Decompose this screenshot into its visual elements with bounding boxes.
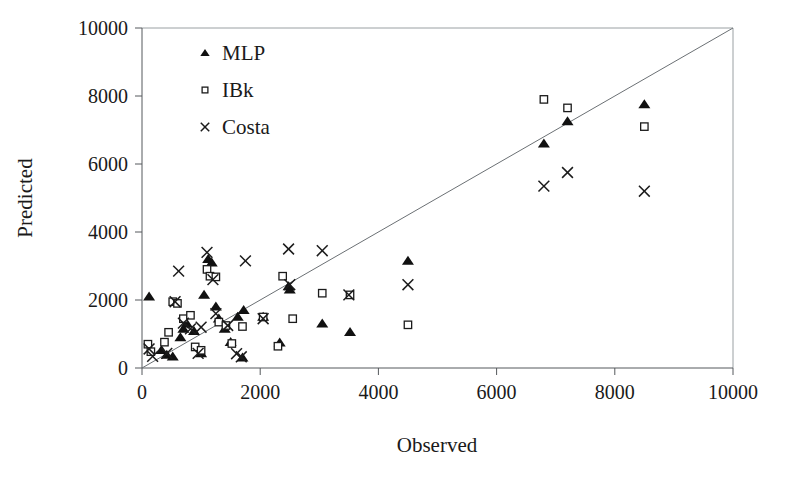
y-tick-label: 2000 <box>88 289 128 311</box>
y-tick-label: 8000 <box>88 85 128 107</box>
x-tick-label: 0 <box>137 381 147 403</box>
data-point-ibk <box>641 123 648 130</box>
x-tick-label: 2000 <box>240 381 280 403</box>
data-point-ibk <box>540 96 547 103</box>
legend-label-mlp: MLP <box>222 41 265 65</box>
x-tick-label: 4000 <box>358 381 398 403</box>
data-point-ibk <box>404 321 411 328</box>
data-point-ibk <box>165 329 172 336</box>
data-point-ibk <box>346 291 353 298</box>
data-point-ibk <box>289 315 296 322</box>
legend-label-ibk: IBk <box>222 78 254 102</box>
data-point-ibk <box>228 340 235 347</box>
data-point-ibk <box>319 290 326 297</box>
y-tick-label: 10000 <box>78 17 128 39</box>
data-point-ibk <box>279 273 286 280</box>
plot-canvas: 0200040006000800010000 02000400060008000… <box>0 0 799 485</box>
data-point-ibk-legend <box>202 87 208 93</box>
x-axis-title: Observed <box>397 433 478 457</box>
data-point-ibk <box>274 343 281 350</box>
x-tick-label: 6000 <box>477 381 517 403</box>
legend-label-costa: Costa <box>222 115 271 139</box>
data-point-ibk <box>161 338 168 345</box>
data-point-ibk <box>215 318 222 325</box>
data-point-ibk <box>239 323 246 330</box>
data-point-ibk <box>564 104 571 111</box>
x-tick-label: 8000 <box>595 381 635 403</box>
y-tick-label: 0 <box>118 357 128 379</box>
scatter-plot-figure: 0200040006000800010000 02000400060008000… <box>0 0 799 485</box>
x-tick-label: 10000 <box>708 381 758 403</box>
y-tick-label: 6000 <box>88 153 128 175</box>
y-tick-label: 4000 <box>88 221 128 243</box>
y-axis-title: Predicted <box>13 158 37 238</box>
